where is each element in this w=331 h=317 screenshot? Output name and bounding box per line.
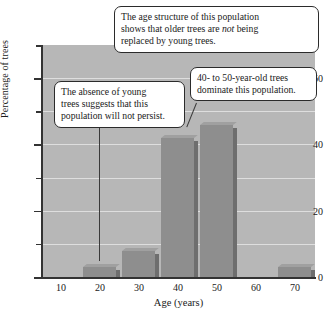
bar-age-40 (161, 138, 194, 277)
bar-side-shadow (116, 270, 120, 277)
y-tick-60 (34, 78, 41, 80)
bar-top-highlight (200, 122, 237, 125)
callout-left: The absence of young trees suggests that… (54, 81, 185, 128)
y-tick-0 (34, 277, 41, 279)
y-tick-20 (34, 211, 41, 213)
y-tick-label-40: 40 (313, 139, 323, 150)
callout-top-line2a: shows that older trees are (121, 23, 222, 34)
y-axis-line (41, 45, 43, 278)
x-tick-label-30: 30 (134, 282, 144, 293)
bar-age-70 (278, 267, 311, 277)
x-axis-line (41, 277, 316, 279)
callout-top-line3: replaced by young trees. (121, 35, 216, 46)
bar-side-shadow (155, 254, 159, 278)
leader-line-left-callout (99, 127, 100, 261)
callout-top-line2c: being (234, 23, 258, 34)
callout-left-line3: population will not persist. (61, 110, 165, 121)
y-tick-40 (34, 144, 41, 146)
y-tick-70 (36, 45, 41, 47)
y-axis-title: Percentage of trees (0, 40, 10, 118)
y-tick-50 (36, 111, 41, 113)
bar-side-shadow (194, 141, 198, 277)
x-tick-label-10: 10 (56, 282, 66, 293)
callout-right: 40- to 50-year-old trees dominate this p… (190, 67, 317, 101)
bar-top-highlight (278, 264, 315, 267)
bar-age-20 (83, 267, 116, 277)
bar-side-shadow (311, 270, 315, 277)
callout-left-line2: trees suggests that this (61, 98, 148, 109)
callout-left-line1: The absence of young (61, 86, 146, 97)
x-tick-label-60: 60 (251, 282, 261, 293)
callout-top: The age structure of this population sho… (114, 6, 319, 53)
age-structure-bar-chart: 60 40 20 0 10 20 30 40 50 60 70 Percenta… (0, 0, 331, 317)
y-tick-30 (36, 178, 41, 180)
x-tick-label-20: 20 (95, 282, 105, 293)
x-tick-label-70: 70 (290, 282, 300, 293)
callout-right-line2: dominate this population. (197, 84, 296, 95)
bar-top-highlight (161, 135, 198, 138)
y-tick-10 (36, 244, 41, 246)
x-axis-title: Age (years) (42, 297, 315, 308)
bar-age-30 (122, 251, 155, 278)
x-tick-label-50: 50 (212, 282, 222, 293)
y-tick-label-0: 0 (318, 272, 323, 283)
bar-top-highlight (122, 248, 159, 251)
callout-top-line1: The age structure of this population (121, 11, 259, 22)
bar-side-shadow (233, 128, 237, 277)
callout-top-emphasis: not (222, 23, 234, 34)
x-tick-label-40: 40 (173, 282, 183, 293)
bar-age-50 (200, 125, 233, 277)
y-tick-label-20: 20 (313, 205, 323, 216)
bar-top-highlight (83, 264, 120, 267)
callout-right-line1: 40- to 50-year-old trees (197, 72, 288, 83)
